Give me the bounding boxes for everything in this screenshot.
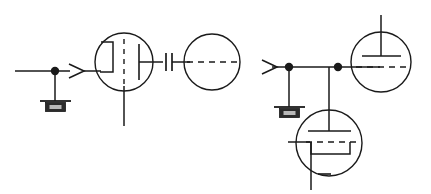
tube-upper-right-group bbox=[351, 15, 411, 92]
coupling-capacitor-group bbox=[166, 53, 190, 71]
ground-icon-left bbox=[40, 101, 71, 112]
left-stage-group bbox=[15, 33, 163, 126]
cathode-bracket-left bbox=[100, 42, 113, 72]
ground-icon-right bbox=[274, 107, 305, 118]
signal-arrow-left-icon bbox=[69, 64, 84, 78]
circuit-schematic bbox=[0, 0, 431, 194]
tube-lower-right-group bbox=[288, 67, 362, 190]
schematic-canvas: Vacuum tube circuit schematic bbox=[0, 0, 431, 194]
circle-element-group bbox=[184, 34, 240, 90]
bus-junction-right-dot bbox=[334, 63, 342, 71]
cathode-bracket-lower-right bbox=[311, 142, 350, 154]
right-stage-group bbox=[262, 15, 411, 190]
